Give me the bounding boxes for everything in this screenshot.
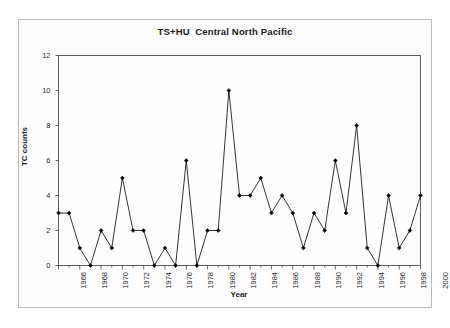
x-tick-label: 1998	[419, 272, 428, 289]
data-point	[163, 246, 167, 250]
data-point	[387, 194, 391, 198]
data-point	[312, 211, 316, 215]
x-tick-label: 1970	[121, 272, 130, 289]
data-point	[280, 194, 284, 198]
data-point	[110, 246, 114, 250]
x-tick-label: 1978	[206, 272, 215, 289]
x-tick-label: 1994	[376, 272, 385, 289]
chart-figure: TS+HU Central North Pacific TC counts Ye…	[0, 0, 450, 328]
y-tick-label: 0	[31, 261, 51, 270]
data-point	[248, 194, 252, 198]
data-point-markers	[57, 89, 423, 268]
x-tick-label: 1974	[163, 272, 172, 289]
data-point	[195, 264, 199, 268]
data-point	[355, 124, 359, 128]
x-tick-label: 1986	[291, 272, 300, 289]
y-tick-label: 8	[31, 121, 51, 130]
y-tick-label: 12	[31, 51, 51, 60]
data-point	[227, 89, 231, 93]
data-point	[408, 229, 412, 233]
data-point	[89, 264, 93, 268]
data-point	[184, 159, 188, 163]
data-point	[419, 194, 423, 198]
x-tick-label: 1984	[270, 272, 279, 289]
y-tick-label: 10	[31, 86, 51, 95]
data-point	[131, 229, 135, 233]
y-tick-label: 6	[31, 156, 51, 165]
x-tick-label: 1972	[142, 272, 151, 289]
x-tick-label: 1982	[249, 272, 258, 289]
data-point	[301, 246, 305, 250]
data-point	[376, 264, 380, 268]
data-point	[323, 229, 327, 233]
data-point	[120, 176, 124, 180]
data-point	[259, 176, 263, 180]
data-point	[344, 211, 348, 215]
data-point	[67, 211, 71, 215]
x-tick-label: 1980	[227, 272, 236, 289]
x-tick-label: 1988	[312, 272, 321, 289]
x-tick-label: 1966	[78, 272, 87, 289]
data-point	[333, 159, 337, 163]
data-point	[174, 264, 178, 268]
series-line	[59, 91, 421, 266]
data-point	[291, 211, 295, 215]
data-point	[397, 246, 401, 250]
x-tick-label: 1992	[355, 272, 364, 289]
y-tick-label: 2	[31, 226, 51, 235]
data-point	[238, 194, 242, 198]
data-point	[206, 229, 210, 233]
data-point	[152, 264, 156, 268]
data-point	[57, 211, 61, 215]
y-tick-label: 4	[31, 191, 51, 200]
x-tick-label: 1996	[398, 272, 407, 289]
data-point	[99, 229, 103, 233]
data-point	[142, 229, 146, 233]
x-tick-label: 1976	[185, 272, 194, 289]
x-tick-label: 1968	[99, 272, 108, 289]
data-point	[270, 211, 274, 215]
data-point	[78, 246, 82, 250]
x-tick-label: 1990	[334, 272, 343, 289]
tick-marks	[56, 56, 421, 270]
x-tick-label: 2000	[440, 272, 449, 289]
data-point	[365, 246, 369, 250]
data-point	[216, 229, 220, 233]
